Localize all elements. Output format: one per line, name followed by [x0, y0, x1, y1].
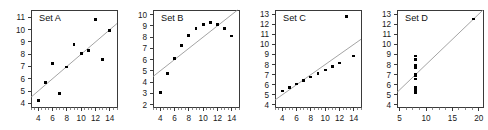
data-point	[414, 78, 417, 81]
data-point	[37, 99, 40, 102]
y-tick-label: 9	[264, 50, 269, 59]
x-tick-label: 8	[65, 114, 70, 123]
data-point	[295, 83, 298, 86]
y-tick-label: 12	[382, 20, 392, 29]
data-point	[230, 35, 233, 38]
panel-title: Set A	[39, 13, 62, 23]
data-point	[414, 64, 417, 67]
scatter-plot-set-c: 46810121445678910111213Set C	[244, 0, 366, 130]
x-tick-label: 6	[172, 114, 177, 123]
data-point	[65, 66, 68, 69]
data-point	[302, 79, 305, 82]
y-tick-label: 5	[20, 87, 25, 96]
data-point	[352, 55, 355, 58]
y-tick-label: 8	[386, 61, 391, 70]
plot-frame	[154, 11, 240, 108]
panel-title: Set B	[161, 13, 183, 23]
data-point	[317, 72, 320, 75]
x-tick-label: 6	[294, 114, 299, 123]
y-tick-label: 9	[386, 50, 391, 59]
x-tick-label: 10	[77, 114, 87, 123]
y-tick-label: 13	[260, 10, 270, 19]
data-point	[159, 91, 162, 94]
x-tick-label: 4	[280, 114, 285, 123]
scatter-plot-set-d: 510152045678910111213Set D	[366, 0, 488, 130]
data-point	[180, 44, 183, 47]
y-tick-label: 11	[17, 13, 26, 22]
anscombe-quartet-figure: 4681012144567891011Set A 468101214234567…	[0, 0, 488, 130]
panel-title: Set D	[405, 13, 428, 23]
x-tick-label: 6	[50, 114, 55, 123]
panel-title: Set C	[283, 13, 306, 23]
y-tick-label: 6	[264, 81, 269, 90]
plot-frame	[276, 11, 362, 108]
y-tick-label: 6	[386, 81, 391, 90]
y-tick-label: 8	[20, 50, 25, 59]
x-tick-label: 14	[105, 114, 115, 123]
x-tick-label: 14	[349, 114, 359, 123]
y-tick-label: 6	[142, 56, 147, 65]
data-point	[414, 55, 417, 58]
y-tick-label: 7	[20, 62, 25, 71]
data-point	[288, 86, 291, 89]
y-tick-label: 7	[264, 71, 269, 80]
y-tick-label: 10	[138, 11, 148, 20]
data-point	[472, 18, 475, 21]
x-tick-label: 12	[213, 114, 223, 123]
data-point	[345, 15, 348, 18]
data-point	[331, 65, 334, 68]
data-point	[101, 58, 104, 61]
data-point	[173, 57, 176, 60]
x-tick-label: 8	[187, 114, 192, 123]
y-tick-label: 4	[20, 99, 25, 108]
data-point	[58, 92, 61, 95]
chart-panel-set-c: 46810121445678910111213Set C	[244, 0, 366, 130]
x-tick-label: 4	[36, 114, 41, 123]
y-tick-label: 10	[382, 40, 392, 49]
chart-panel-set-d: 510152045678910111213Set D	[366, 0, 488, 130]
y-tick-label: 11	[383, 30, 392, 39]
data-point	[414, 88, 417, 91]
x-tick-label: 4	[158, 114, 163, 123]
y-tick-label: 3	[142, 89, 147, 98]
y-tick-label: 10	[260, 40, 270, 49]
plot-frame	[32, 11, 118, 108]
data-point	[51, 62, 54, 65]
data-point	[187, 34, 190, 37]
data-point	[414, 58, 417, 61]
y-tick-label: 13	[382, 10, 392, 19]
x-tick-label: 12	[91, 114, 101, 123]
y-tick-label: 5	[264, 91, 269, 100]
data-point	[209, 21, 212, 24]
x-tick-label: 10	[199, 114, 209, 123]
x-tick-label: 10	[421, 114, 431, 123]
x-tick-label: 12	[335, 114, 345, 123]
data-point	[309, 76, 312, 79]
data-point	[216, 23, 219, 26]
data-point	[414, 74, 417, 77]
y-tick-label: 11	[261, 30, 270, 39]
data-point	[281, 90, 284, 93]
data-point	[338, 62, 341, 65]
y-tick-label: 12	[260, 20, 270, 29]
y-tick-label: 8	[142, 33, 147, 42]
data-point	[223, 27, 226, 30]
data-point	[44, 81, 47, 84]
chart-panel-set-a: 4681012144567891011Set A	[0, 0, 122, 130]
y-tick-label: 4	[264, 101, 269, 110]
data-point	[87, 49, 90, 52]
y-tick-label: 4	[386, 101, 391, 110]
y-tick-label: 7	[142, 44, 147, 53]
data-point	[166, 72, 169, 75]
data-point	[108, 29, 111, 32]
data-point	[324, 69, 327, 72]
chart-panel-set-b: 4681012142345678910Set B	[122, 0, 244, 130]
x-tick-label: 14	[227, 114, 237, 123]
y-tick-label: 8	[264, 61, 269, 70]
data-point	[202, 23, 205, 26]
x-tick-label: 15	[448, 114, 458, 123]
data-point	[80, 52, 83, 55]
x-tick-label: 10	[321, 114, 331, 123]
scatter-plot-set-a: 4681012144567891011Set A	[0, 0, 122, 130]
y-tick-label: 5	[386, 91, 391, 100]
